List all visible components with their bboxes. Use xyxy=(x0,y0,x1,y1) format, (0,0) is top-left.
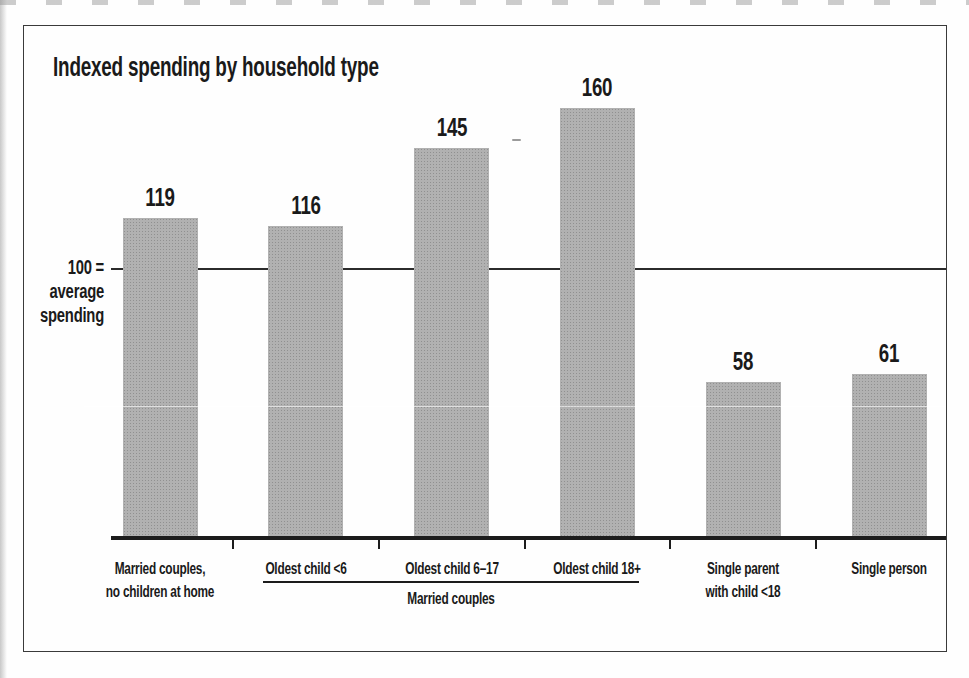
bar-6 xyxy=(852,374,927,538)
x-axis-tick-3 xyxy=(524,539,526,549)
bar-value-label-6: 61 xyxy=(846,338,932,369)
married-couples-group-underline xyxy=(263,581,639,583)
bar-value-label-1: 119 xyxy=(117,182,203,213)
scan-edge-left-artifact xyxy=(0,0,7,678)
category-label-4: Oldest child 18+ xyxy=(523,557,671,580)
bar-value-label-2: 116 xyxy=(263,190,349,221)
bar-1 xyxy=(123,218,198,538)
scan-line-artifact xyxy=(84,406,946,407)
category-label-1: Married couples, no children at home xyxy=(86,557,234,603)
category-label-3: Oldest child 6–17 xyxy=(378,557,526,580)
category-label-6: Single person xyxy=(815,557,963,580)
x-axis-tick-1 xyxy=(232,539,234,549)
bar-value-label-5: 58 xyxy=(700,346,786,377)
bar-4 xyxy=(560,108,635,538)
x-axis-tick-4 xyxy=(669,539,671,549)
bar-value-label-3: 145 xyxy=(408,112,494,143)
x-axis-tick-5 xyxy=(815,539,817,549)
bar-2 xyxy=(268,226,343,538)
chart-title: Indexed spending by household type xyxy=(53,52,379,83)
chart-frame: Indexed spending by household type 100 =… xyxy=(23,25,947,652)
bar-3 xyxy=(414,148,489,538)
scan-speck xyxy=(512,139,521,141)
x-axis-line xyxy=(111,536,946,540)
page: Indexed spending by household type 100 =… xyxy=(0,0,969,678)
category-label-5: Single parent with child <18 xyxy=(669,557,817,603)
category-label-2: Oldest child <6 xyxy=(232,557,380,580)
reference-line-100 xyxy=(111,268,946,270)
scan-edge-top-artifact xyxy=(0,0,969,5)
married-couples-group-label: Married couples xyxy=(377,590,525,608)
x-axis-tick-2 xyxy=(378,539,380,549)
bar-value-label-4: 160 xyxy=(554,72,640,103)
reference-line-label: 100 = average spending xyxy=(0,255,104,327)
